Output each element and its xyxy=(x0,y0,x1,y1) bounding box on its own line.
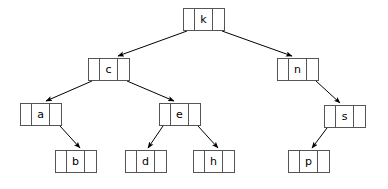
tree-node-e[interactable]: e xyxy=(159,103,201,126)
node-s-left-pointer-cell xyxy=(325,106,336,127)
node-s-right-pointer-cell xyxy=(354,106,365,127)
node-h-key-label: h xyxy=(205,151,223,172)
tree-node-b[interactable]: b xyxy=(55,150,97,173)
node-d-key-label: d xyxy=(137,151,155,172)
tree-node-a[interactable]: a xyxy=(20,103,62,126)
edge-c-to-a xyxy=(46,81,92,101)
node-a-key-label: a xyxy=(32,104,50,125)
node-e-right-pointer-cell xyxy=(189,104,200,125)
node-k-right-pointer-cell xyxy=(213,9,224,30)
tree-node-n[interactable]: n xyxy=(277,58,319,81)
node-k-left-pointer-cell xyxy=(184,9,195,30)
node-b-key-label: b xyxy=(67,151,85,172)
edge-e-to-h xyxy=(198,126,218,148)
node-e-left-pointer-cell xyxy=(160,104,171,125)
tree-node-h[interactable]: h xyxy=(193,150,235,173)
tree-edges xyxy=(46,31,340,148)
node-d-left-pointer-cell xyxy=(126,151,137,172)
node-k-key-label: k xyxy=(195,9,213,30)
node-b-left-pointer-cell xyxy=(56,151,67,172)
node-d-right-pointer-cell xyxy=(155,151,166,172)
node-n-key-label: n xyxy=(289,59,307,80)
node-a-left-pointer-cell xyxy=(21,104,32,125)
node-h-right-pointer-cell xyxy=(223,151,234,172)
node-s-key-label: s xyxy=(336,106,354,127)
node-c-left-pointer-cell xyxy=(89,59,100,80)
tree-node-k[interactable]: k xyxy=(183,8,225,31)
edge-k-to-n xyxy=(222,31,292,56)
node-n-left-pointer-cell xyxy=(278,59,289,80)
node-p-right-pointer-cell xyxy=(318,151,329,172)
node-a-right-pointer-cell xyxy=(50,104,61,125)
node-b-right-pointer-cell xyxy=(85,151,96,172)
edge-c-to-e xyxy=(127,81,174,101)
tree-node-c[interactable]: c xyxy=(88,58,130,81)
edge-e-to-d xyxy=(148,126,163,148)
tree-node-s[interactable]: s xyxy=(324,105,366,128)
node-e-key-label: e xyxy=(171,104,189,125)
node-p-key-label: p xyxy=(300,151,318,172)
edge-k-to-c xyxy=(118,31,187,56)
edge-s-to-p xyxy=(312,128,327,148)
node-n-right-pointer-cell xyxy=(307,59,318,80)
node-c-key-label: c xyxy=(100,59,118,80)
node-p-left-pointer-cell xyxy=(289,151,300,172)
tree-node-d[interactable]: d xyxy=(125,150,167,173)
bst-diagram-canvas: kcnaesbdhp xyxy=(0,0,388,189)
node-h-left-pointer-cell xyxy=(194,151,205,172)
edge-a-to-b xyxy=(60,126,80,148)
edge-n-to-s xyxy=(316,81,340,103)
tree-node-p[interactable]: p xyxy=(288,150,330,173)
node-c-right-pointer-cell xyxy=(118,59,129,80)
